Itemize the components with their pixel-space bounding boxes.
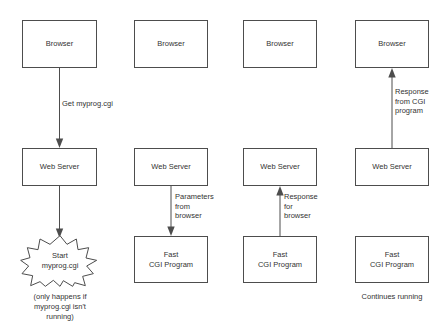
- caption-col1: (only happens if myprog.cgi isn't runnin…: [15, 292, 105, 322]
- node-start-process-col1[interactable]: Start myprog.cgi: [20, 235, 100, 287]
- node-browser-col2[interactable]: Browser: [134, 20, 208, 68]
- node-fastcgi-col4[interactable]: Fast CGI Program: [355, 236, 429, 283]
- edge-label-response-from-cgi-col4: Response from CGI program: [395, 87, 429, 116]
- edge-label-get-myprog-col1: Get myprog.cgi: [62, 99, 113, 109]
- edge-webserver-to-process-col1: [22, 186, 97, 238]
- caption-col4: Continues running: [347, 292, 437, 302]
- node-browser-col4[interactable]: Browser: [355, 20, 429, 68]
- node-start-process-label-col1: Start myprog.cgi: [20, 235, 100, 287]
- diagram-canvas: Browser Get myprog.cgi Web Server Start …: [0, 0, 445, 331]
- node-webserver-col3[interactable]: Web Server: [243, 148, 317, 186]
- node-webserver-col2[interactable]: Web Server: [134, 148, 208, 186]
- edge-label-parameters-col2: Parameters from browser: [175, 192, 214, 221]
- node-fastcgi-col3[interactable]: Fast CGI Program: [243, 236, 317, 283]
- node-browser-col1[interactable]: Browser: [22, 20, 97, 68]
- node-webserver-col1[interactable]: Web Server: [22, 148, 97, 186]
- node-fastcgi-col2[interactable]: Fast CGI Program: [134, 236, 208, 283]
- node-browser-col3[interactable]: Browser: [243, 20, 317, 68]
- edge-label-response-for-browser-col3: Response for browser: [284, 192, 318, 221]
- node-webserver-col4[interactable]: Web Server: [355, 148, 429, 186]
